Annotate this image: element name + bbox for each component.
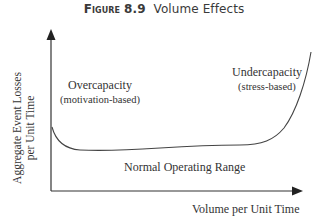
y-axis-arrow-icon	[47, 29, 56, 40]
y-axis-label: Aggregate Event Losses per Unit Time	[11, 72, 37, 184]
undercapacity-annotation: Undercapacity (stress-based)	[232, 65, 302, 94]
plot-area	[0, 0, 328, 224]
undercapacity-label: Undercapacity	[232, 65, 302, 80]
overcapacity-annotation: Overcapacity (motivation-based)	[60, 78, 140, 107]
y-axis-label-line2: per Unit Time	[24, 72, 37, 184]
x-axis-arrow-icon	[292, 187, 303, 196]
y-axis-label-line1: Aggregate Event Losses	[11, 72, 24, 184]
normal-operating-range-label: Normal Operating Range	[124, 160, 245, 175]
overcapacity-sublabel: (motivation-based)	[60, 93, 140, 107]
x-axis-label: Volume per Unit Time	[192, 202, 299, 217]
overcapacity-label: Overcapacity	[60, 78, 140, 93]
undercapacity-sublabel: (stress-based)	[232, 80, 302, 94]
